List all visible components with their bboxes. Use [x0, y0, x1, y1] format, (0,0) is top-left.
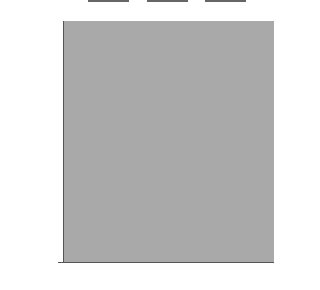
bar-third-year: [205, 0, 246, 2]
bar-first-year: [88, 0, 129, 2]
y-axis-line: [63, 21, 64, 263]
x-axis-line: [58, 262, 274, 263]
bar-second-year: [147, 0, 188, 2]
plot-area: [64, 21, 274, 262]
